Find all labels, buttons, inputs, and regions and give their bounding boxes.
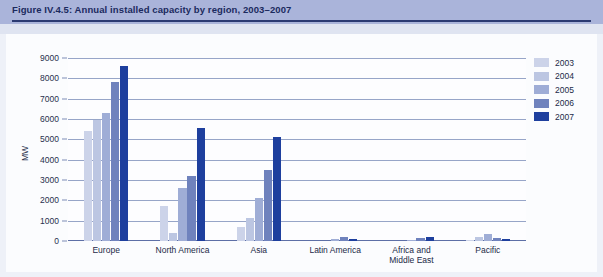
legend-label: 2007 bbox=[555, 112, 574, 122]
bar bbox=[255, 198, 263, 241]
bar bbox=[93, 120, 101, 241]
x-axis-line bbox=[68, 240, 526, 241]
legend-label: 2003 bbox=[555, 58, 574, 68]
bar bbox=[197, 128, 205, 241]
y-axis-title: MW bbox=[20, 145, 30, 160]
bar bbox=[273, 137, 281, 241]
bar-group bbox=[313, 58, 358, 241]
bar-group bbox=[389, 58, 434, 241]
y-axis-tick-mark bbox=[62, 139, 67, 140]
legend-swatch bbox=[534, 58, 549, 67]
y-axis-tick-mark bbox=[62, 58, 67, 59]
legend-swatch bbox=[534, 72, 549, 81]
y-axis-tick-label: 9000 bbox=[40, 53, 59, 63]
x-axis-category-label: North America bbox=[144, 246, 220, 256]
legend-swatch bbox=[534, 112, 549, 121]
y-axis-tick-label: 7000 bbox=[40, 94, 59, 104]
y-axis-tick-mark bbox=[62, 98, 67, 99]
y-axis-tick-label: 6000 bbox=[40, 114, 59, 124]
y-axis-tick-mark bbox=[62, 78, 67, 79]
y-axis-tick-mark bbox=[62, 119, 67, 120]
bar bbox=[349, 239, 357, 241]
gridline bbox=[68, 58, 526, 59]
legend-item[interactable]: 2007 bbox=[534, 110, 574, 124]
y-axis-tick-mark bbox=[62, 180, 67, 181]
y-axis-tick-label: 5000 bbox=[40, 134, 59, 144]
gridline bbox=[68, 78, 526, 79]
gridline bbox=[68, 139, 526, 140]
legend-label: 2006 bbox=[555, 98, 574, 108]
bar bbox=[416, 238, 424, 241]
bar bbox=[475, 237, 483, 241]
chart-card: MW 0100020003000400050006000700080009000… bbox=[6, 34, 597, 272]
gridline bbox=[68, 99, 526, 100]
figure-page: Figure IV.4.5: Annual installed capacity… bbox=[0, 0, 603, 277]
x-axis-category-label: Latin America bbox=[297, 246, 373, 256]
bar bbox=[331, 239, 339, 241]
bar bbox=[178, 188, 186, 241]
bar-group bbox=[84, 58, 129, 241]
bar bbox=[187, 176, 195, 241]
legend-swatch bbox=[534, 85, 549, 94]
y-axis-tick-label: 3000 bbox=[40, 175, 59, 185]
figure-title: Figure IV.4.5: Annual installed capacity… bbox=[12, 4, 291, 15]
y-axis-tick-label: 2000 bbox=[40, 195, 59, 205]
y-axis-tick-mark bbox=[62, 241, 67, 242]
bar bbox=[426, 237, 434, 241]
bar bbox=[120, 66, 128, 241]
bar bbox=[264, 170, 272, 241]
gridline bbox=[68, 221, 526, 222]
x-axis-category-label: Pacific bbox=[450, 246, 526, 256]
header-band-secondary bbox=[0, 24, 603, 34]
bar bbox=[466, 240, 474, 241]
y-axis-tick-label: 8000 bbox=[40, 73, 59, 83]
bar-group bbox=[237, 58, 282, 241]
y-axis-tick-mark bbox=[62, 220, 67, 221]
bar bbox=[246, 218, 254, 241]
gridline bbox=[68, 119, 526, 120]
title-divider bbox=[12, 20, 591, 22]
y-axis-tick-label: 4000 bbox=[40, 155, 59, 165]
legend-item[interactable]: 2006 bbox=[534, 97, 574, 111]
gridline bbox=[68, 160, 526, 161]
bar bbox=[407, 240, 415, 241]
bar bbox=[237, 227, 245, 241]
legend-item[interactable]: 2004 bbox=[534, 70, 574, 84]
bar bbox=[160, 206, 168, 241]
legend-label: 2005 bbox=[555, 85, 574, 95]
x-axis-category-label: Europe bbox=[68, 246, 144, 256]
legend-label: 2004 bbox=[555, 71, 574, 81]
bar-group bbox=[160, 58, 205, 241]
x-axis-category-label: Asia bbox=[221, 246, 297, 256]
plot-area bbox=[68, 58, 526, 241]
y-axis-tick-mark bbox=[62, 159, 67, 160]
gridline bbox=[68, 180, 526, 181]
y-axis-tick-label: 1000 bbox=[40, 216, 59, 226]
legend-item[interactable]: 2003 bbox=[534, 56, 574, 70]
bar bbox=[484, 234, 492, 241]
bar bbox=[502, 239, 510, 241]
bar bbox=[493, 238, 501, 241]
y-axis-tick-mark bbox=[62, 200, 67, 201]
x-axis-category-label: Africa andMiddle East bbox=[373, 246, 449, 265]
bar bbox=[84, 131, 92, 241]
y-axis-tick-label: 0 bbox=[54, 236, 59, 246]
legend-item[interactable]: 2005 bbox=[534, 83, 574, 97]
bar bbox=[111, 82, 119, 241]
bar-group bbox=[466, 58, 511, 241]
legend-swatch bbox=[534, 99, 549, 108]
gridline bbox=[68, 200, 526, 201]
chart-legend: 20032004200520062007 bbox=[534, 56, 574, 124]
bar bbox=[102, 113, 110, 241]
bar bbox=[169, 233, 177, 241]
bar bbox=[340, 237, 348, 241]
